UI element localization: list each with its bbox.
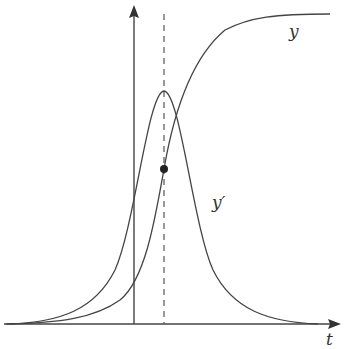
label-t: t — [326, 329, 333, 349]
inflection-point — [160, 165, 168, 173]
label-y: y — [288, 21, 299, 41]
t-axis — [4, 319, 341, 329]
logistic-diagram: y y′ t — [0, 0, 347, 349]
label-y-prime: y′ — [211, 192, 226, 212]
